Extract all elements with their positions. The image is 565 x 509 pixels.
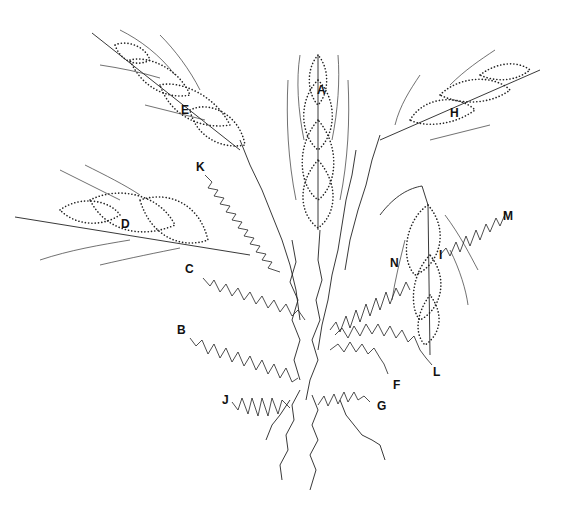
branch-c [203, 278, 305, 320]
branch-b [190, 338, 298, 382]
central-stems [240, 135, 380, 400]
label-k: K [196, 161, 205, 173]
label-l: L [433, 366, 440, 378]
lower-branches [266, 390, 385, 490]
spikelet-h [380, 50, 540, 140]
label-g: G [377, 400, 386, 412]
label-i: I [439, 249, 442, 261]
branch-f [330, 342, 388, 374]
spikelet-d [15, 165, 250, 265]
spikelet-i [380, 186, 478, 355]
branch-k [205, 175, 280, 272]
branch-m [440, 212, 506, 256]
label-d: D [121, 218, 130, 230]
spikelet-a [287, 55, 348, 230]
spikelet-e [92, 30, 245, 150]
label-f: F [393, 379, 400, 391]
label-h: H [450, 107, 459, 119]
inflorescence-diagram [0, 0, 565, 509]
branch-n [330, 282, 410, 332]
label-e: E [181, 104, 189, 116]
branch-l [335, 324, 432, 365]
zigzag-branches [190, 175, 506, 416]
label-c: C [185, 263, 194, 275]
label-n: N [390, 257, 399, 269]
label-b: B [177, 324, 186, 336]
branch-g [318, 392, 370, 406]
label-m: M [503, 210, 513, 222]
label-j: J [222, 394, 229, 406]
label-a: A [317, 84, 326, 96]
